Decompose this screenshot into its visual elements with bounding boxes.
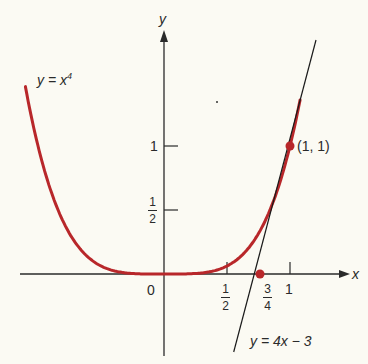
y-axis-label: y <box>159 12 166 26</box>
curve-x-to-fourth <box>25 87 300 274</box>
curve-label: y = x4 <box>37 72 72 87</box>
x-tick-three-quarters-label: 34 <box>263 283 272 312</box>
denominator: 4 <box>264 300 271 312</box>
numerator: 1 <box>149 196 156 208</box>
x-axis-arrow-icon <box>339 270 350 278</box>
point-1-1 <box>286 142 295 151</box>
y-axis-arrow-icon <box>160 30 168 42</box>
x-tick-half-label: 12 <box>221 283 230 312</box>
y-tick-1-label: 1 <box>150 139 158 153</box>
denominator: 2 <box>222 300 229 312</box>
fraction-bar <box>148 210 157 211</box>
curve-label-text: y = x <box>37 72 67 88</box>
graph-canvas <box>0 0 368 364</box>
y-tick-half-label: 12 <box>148 196 157 225</box>
origin-label: 0 <box>147 283 155 297</box>
point-x-intercept <box>256 270 265 279</box>
x-tick-1-label: 1 <box>285 282 293 296</box>
numerator: 1 <box>222 283 229 295</box>
x-axis-label: x <box>352 267 359 281</box>
speck <box>216 101 218 103</box>
fraction-bar <box>263 297 272 298</box>
curve-label-exponent: 4 <box>67 71 72 81</box>
numerator: 3 <box>264 283 271 295</box>
fraction-bar <box>221 297 230 298</box>
tangent-line <box>234 40 316 352</box>
tangent-label: y = 4x − 3 <box>250 334 311 348</box>
denominator: 2 <box>149 213 156 225</box>
point-label: (1, 1) <box>297 139 330 153</box>
